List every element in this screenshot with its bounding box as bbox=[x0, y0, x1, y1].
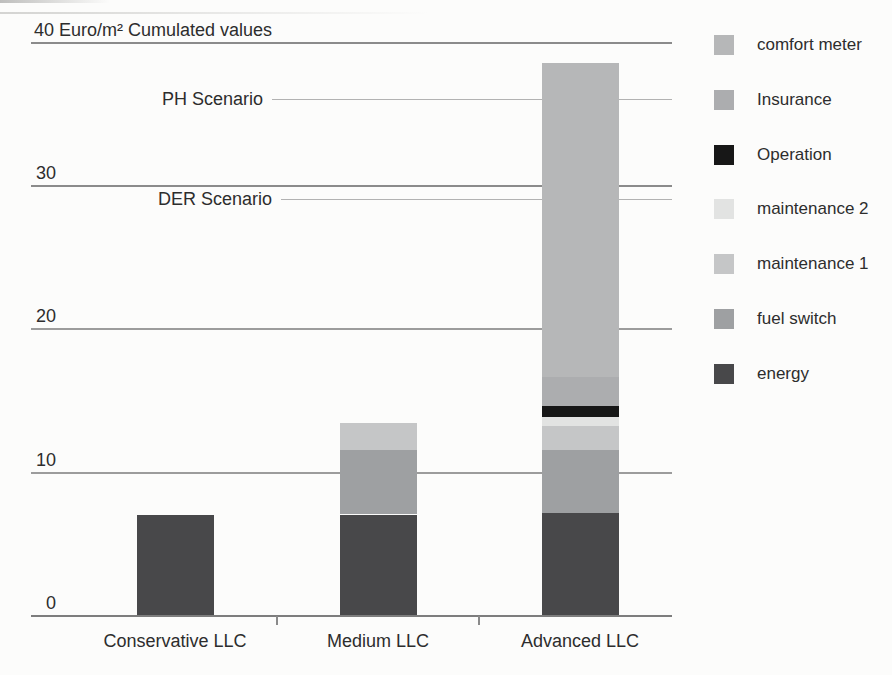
annotation-label-ph-scenario: PH Scenario bbox=[43, 89, 263, 109]
legend-swatch-insurance bbox=[714, 90, 734, 110]
bar-segment-comfort-meter-advanced-llc bbox=[542, 63, 619, 377]
ytick-label-20: 20 bbox=[0, 306, 56, 326]
scan-artifact-streak bbox=[0, 12, 430, 14]
bar-segment-operation-advanced-llc bbox=[542, 406, 619, 417]
legend-swatch-maintenance-2 bbox=[714, 199, 734, 219]
legend-label-operation: Operation bbox=[757, 145, 832, 165]
annotation-label-der-scenario: DER Scenario bbox=[52, 189, 272, 209]
legend-label-energy: energy bbox=[757, 364, 809, 384]
axis-boundary-tick-1 bbox=[276, 616, 278, 625]
legend-swatch-energy bbox=[714, 364, 734, 384]
chart-title: 40 Euro/m² Cumulated values bbox=[34, 20, 272, 41]
bar-segment-energy-medium-llc bbox=[340, 515, 417, 615]
legend-label-maintenance-1: maintenance 1 bbox=[757, 254, 869, 274]
bar-segment-maintenance-2-advanced-llc bbox=[542, 417, 619, 426]
legend-label-maintenance-2: maintenance 2 bbox=[757, 199, 869, 219]
ytick-label-30: 30 bbox=[0, 163, 56, 183]
category-label-advanced-llc: Advanced LLC bbox=[470, 630, 690, 652]
bar-segment-maintenance-1-medium-llc bbox=[340, 423, 417, 450]
bar-segment-insurance-advanced-llc bbox=[542, 377, 619, 406]
legend-swatch-operation bbox=[714, 145, 734, 165]
legend-swatch-maintenance-1 bbox=[714, 254, 734, 274]
ytick-label-10: 10 bbox=[0, 450, 56, 470]
axis-boundary-tick-2 bbox=[478, 616, 480, 625]
bar-segment-maintenance-1-advanced-llc bbox=[542, 426, 619, 450]
bar-segment-fuel-switch-advanced-llc bbox=[542, 450, 619, 513]
bar-segment-fuel-switch-medium-llc bbox=[340, 450, 417, 514]
gridline-0 bbox=[31, 615, 672, 617]
scan-artifact-corner bbox=[0, 0, 110, 3]
legend-swatch-fuel-switch bbox=[714, 309, 734, 329]
legend-label-comfort-meter: comfort meter bbox=[757, 35, 862, 55]
legend-swatch-comfort-meter bbox=[714, 35, 734, 55]
gridline-40 bbox=[31, 42, 672, 44]
stacked-bar-chart: 40 Euro/m² Cumulated values 0102030 PH S… bbox=[0, 0, 892, 675]
legend-label-fuel-switch: fuel switch bbox=[757, 309, 836, 329]
ytick-label-0: 0 bbox=[0, 593, 56, 613]
category-label-conservative-llc: Conservative LLC bbox=[65, 630, 285, 652]
bar-segment-energy-advanced-llc bbox=[542, 513, 619, 615]
bar-segment-energy-conservative-llc bbox=[137, 515, 214, 615]
category-label-medium-llc: Medium LLC bbox=[268, 630, 488, 652]
legend-label-insurance: Insurance bbox=[757, 90, 832, 110]
